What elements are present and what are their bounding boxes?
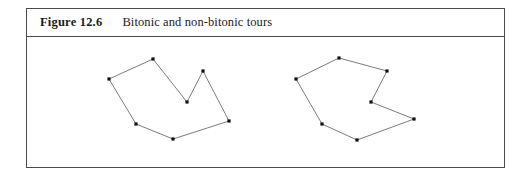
tour-vertex-marker [201, 69, 204, 72]
bitonic-tour-path [109, 59, 229, 139]
tour-vertex-marker [151, 57, 154, 60]
tour-vertex-marker [185, 100, 188, 103]
figure-caption: Figure 12.6Bitonic and non-bitonic tours [40, 13, 272, 32]
panel-a-bitonic-tour [107, 57, 230, 140]
panel-b-non-bitonic-tour [294, 56, 415, 141]
bitonic-tour-vertices [107, 57, 230, 140]
tour-vertex-marker [385, 69, 388, 72]
figure-title: Bitonic and non-bitonic tours [122, 15, 272, 29]
tour-vertex-marker [355, 138, 358, 141]
tour-vertex-marker [171, 137, 174, 140]
tour-vertex-marker [320, 122, 323, 125]
tours-diagram [27, 38, 504, 168]
figure-caption-bar: Figure 12.6Bitonic and non-bitonic tours [27, 9, 504, 37]
figure-number-label: Figure 12.6 [40, 15, 102, 29]
tour-vertex-marker [227, 119, 230, 122]
tour-vertex-marker [294, 77, 297, 80]
figure-frame: Figure 12.6Bitonic and non-bitonic tours… [26, 8, 505, 168]
figure-drawing-area: a) A bitonic tour. b) A tour that is not… [27, 38, 504, 168]
non-bitonic-tour-vertices [294, 56, 415, 141]
tour-vertex-marker [369, 100, 372, 103]
tour-vertex-marker [107, 77, 110, 80]
non-bitonic-tour-path [296, 58, 414, 140]
figure-root: Figure 12.6Bitonic and non-bitonic tours… [0, 0, 531, 177]
tour-vertex-marker [412, 117, 415, 120]
tour-vertex-marker [337, 56, 340, 59]
tour-vertex-marker [134, 122, 137, 125]
